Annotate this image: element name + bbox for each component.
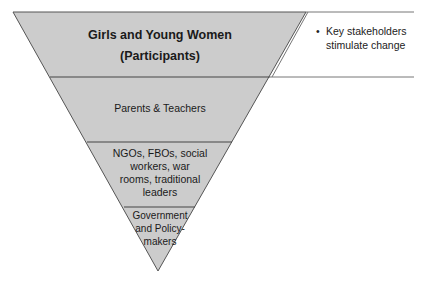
layer-ngos-line: leaders [90, 186, 230, 199]
callout-line: stimulate change [326, 38, 421, 52]
layer-participants-label: Girls and Young Women (Participants) [60, 25, 260, 67]
bullet-icon: • [316, 24, 320, 38]
layer-government-line: Government [110, 209, 210, 222]
layer-government-line: and Policy- [110, 222, 210, 235]
layer-parents-label: Parents & Teachers [60, 102, 260, 115]
layer-ngos-line: rooms, traditional [90, 173, 230, 186]
layer-ngos-line: NGOs, FBOs, social [90, 147, 230, 160]
layer-ngos-line: workers, war [90, 160, 230, 173]
layer-participants-line1: Girls and Young Women [60, 25, 260, 46]
callout-text: Key stakeholders stimulate change [326, 24, 421, 52]
layer-government-line: makers [110, 235, 210, 248]
layer-ngos-label: NGOs, FBOs, social workers, war rooms, t… [90, 147, 230, 199]
layer-government-label: Government and Policy- makers [110, 209, 210, 248]
callout-line: Key stakeholders [326, 24, 421, 38]
layer-participants-line2: (Participants) [60, 46, 260, 67]
